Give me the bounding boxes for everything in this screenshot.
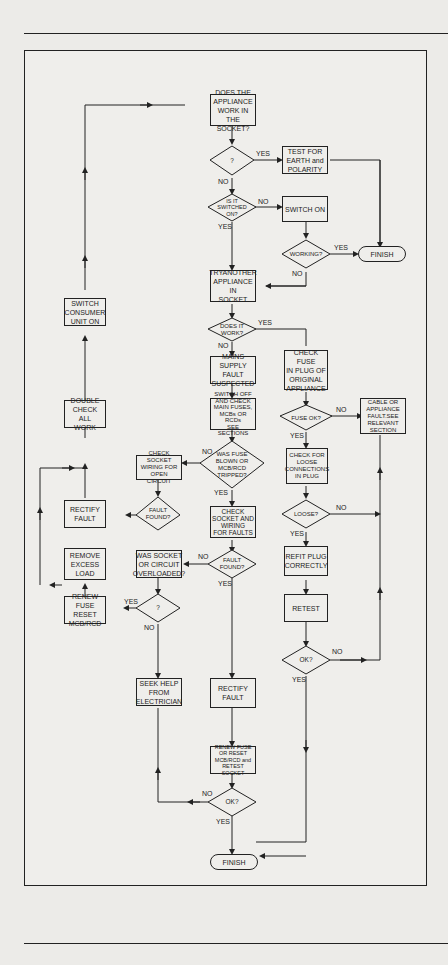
node-switch-consumer: SWITCH CONSUMER UNIT ON xyxy=(64,298,106,326)
decision-working-text: WORKING? xyxy=(282,240,330,268)
label-yes: YES xyxy=(256,150,270,157)
node-rectify-fault-mid: RECTIFY FAULT xyxy=(210,678,256,708)
node-check-socket-faults: CHECK SOCKET AND WIRING FOR FAULTS xyxy=(210,506,256,538)
node-renew-retest: RENEW FUSE OR RESET MCB/RCD and RETEST S… xyxy=(210,746,256,774)
decision-fault-found-1-text: FAULT FOUND? xyxy=(136,497,180,530)
node-test-earth: TEST FOR EARTH and POLARITY xyxy=(282,146,328,174)
label-no: NO xyxy=(218,178,229,185)
label-no: NO xyxy=(202,448,213,455)
label-no: NO xyxy=(332,648,343,655)
node-finish-top: FINISH xyxy=(358,246,406,262)
node-try-another: TRYANOTHER APPLIANCE IN SOCKET xyxy=(210,270,256,302)
label-yes: YES xyxy=(334,244,348,251)
label-no: NO xyxy=(144,624,155,631)
label-yes: YES xyxy=(124,598,138,605)
node-does-appliance-work: DOES THE APPLIANCE WORK IN THE SOCKET? xyxy=(210,94,256,126)
node-remove-load: REMOVE EXCESS LOAD xyxy=(64,548,106,580)
node-cable-fault: CABLE OR APPLIANCE FAULT.SEE RELEVANT SE… xyxy=(360,398,406,434)
decision-loose-text: LOOSE? xyxy=(282,500,330,528)
node-check-fuse-plug: CHECK FUSE IN PLUG OF ORIGINAL APPLIANCE xyxy=(284,350,328,390)
label-no: NO xyxy=(336,504,347,511)
label-yes: YES xyxy=(218,223,232,230)
label-no: NO xyxy=(218,342,229,349)
node-switch-off-check: SWITCH OFF AND CHECK MAIN FUSES, MCBs OR… xyxy=(210,398,256,430)
decision-ok-bottom-text: OK? xyxy=(208,788,256,816)
node-switch-on: SWITCH ON xyxy=(282,196,328,222)
label-yes: YES xyxy=(258,319,272,326)
decision-fault-found-2-text: FAULT FOUND? xyxy=(208,550,256,578)
node-rectify-fault-left: RECTIFY FAULT xyxy=(64,500,106,528)
label-yes: YES xyxy=(218,580,232,587)
label-no: NO xyxy=(292,270,303,277)
label-yes: YES xyxy=(290,530,304,537)
node-mains-supply: MAINS SUPPLY FAULT SUSPECTED xyxy=(210,356,256,384)
node-check-socket-wiring: CHECK SOCKET WIRING FOR OPEN CIRCUIT xyxy=(136,455,182,480)
label-no: NO xyxy=(198,553,209,560)
decision-does-it-work-text: DOES IT WORK? xyxy=(208,318,256,341)
label-no: NO xyxy=(202,790,213,797)
node-finish-bottom: FINISH xyxy=(210,854,258,870)
node-retest: RETEST xyxy=(284,594,328,622)
decision-switched-text: IS IT SWITCHED ON? xyxy=(208,194,256,221)
label-yes: YES xyxy=(290,432,304,439)
decision-q1-text: ? xyxy=(210,146,254,175)
decision-q2-text: ? xyxy=(136,594,180,622)
node-was-overloaded: WAS SOCKET OR CIRCUIT OVERLOADED? xyxy=(136,550,182,578)
node-renew-fuse-reset: RENEW FUSE RESET MCB/RCD xyxy=(64,596,106,624)
node-check-loose: CHECK FOR LOOSE CONNECTIONS IN PLUG xyxy=(286,448,328,484)
label-yes: YES xyxy=(214,489,228,496)
node-refit-plug: REFIT PLUG CORRECTLY xyxy=(284,546,328,576)
node-seek-help: SEEK HELP FROM ELECTRICIAN xyxy=(136,678,182,706)
decision-ok-right-text: OK? xyxy=(282,646,330,674)
label-no: NO xyxy=(258,198,269,205)
label-yes: YES xyxy=(216,818,230,825)
label-no: NO xyxy=(336,406,347,413)
node-double-check: DOUBLE CHECK ALL WORK xyxy=(64,400,106,428)
decision-fuse-ok-text: FUSE OK? xyxy=(280,405,332,430)
label-yes: YES xyxy=(292,676,306,683)
